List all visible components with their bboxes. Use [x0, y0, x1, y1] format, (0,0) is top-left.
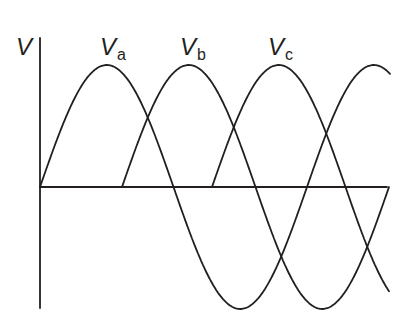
- label-va: Va: [100, 33, 126, 63]
- label-vc: Vc: [268, 33, 293, 63]
- label-vb: Vb: [180, 33, 206, 63]
- y-axis-label: V: [16, 33, 34, 60]
- three-phase-diagram: V Va Vb Vc: [0, 0, 415, 325]
